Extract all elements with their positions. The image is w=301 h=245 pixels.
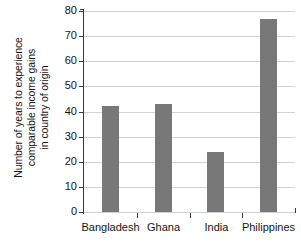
y-tick-label-text: 60 xyxy=(55,55,77,66)
y-tick-label-text: 50 xyxy=(55,80,77,91)
y-tick-label: 50 xyxy=(55,80,77,91)
bar-philippines xyxy=(260,19,277,212)
bar-chart: Number of years to experience comparable… xyxy=(0,0,301,245)
y-tick-mark xyxy=(79,36,84,37)
y-tick-label-text: 70 xyxy=(55,30,77,41)
y-tick-mark xyxy=(79,162,84,163)
x-tick-mark xyxy=(190,213,191,218)
y-tick-mark xyxy=(79,11,84,12)
x-tick-mark xyxy=(242,213,243,218)
y-tick-label-text: 0 xyxy=(55,206,77,217)
y-tick-mark xyxy=(79,61,84,62)
gridline xyxy=(84,11,295,12)
y-axis-top-cap xyxy=(80,9,84,10)
bar-india xyxy=(207,152,224,212)
y-tick-label-text: 20 xyxy=(55,156,77,167)
y-tick-label: 10 xyxy=(55,181,77,192)
y-tick-label: 30 xyxy=(55,131,77,142)
bar-bangladesh xyxy=(102,106,119,212)
y-tick-mark xyxy=(79,137,84,138)
x-axis-label-philippines: Philippines xyxy=(236,221,301,233)
y-axis-title-text: Number of years to experience comparable… xyxy=(12,37,51,178)
y-tick-label-text: 80 xyxy=(55,5,77,16)
y-axis-title-line-3: in country of origin xyxy=(38,37,51,178)
x-axis-right-cap xyxy=(295,208,296,213)
y-tick-mark xyxy=(79,86,84,87)
y-tick-label-text: 10 xyxy=(55,181,77,192)
y-tick-label: 80 xyxy=(55,5,77,16)
y-tick-mark xyxy=(79,112,84,113)
y-axis-title-line-1: Number of years to experience xyxy=(12,37,25,178)
y-tick-label-text: 30 xyxy=(55,131,77,142)
y-axis-title: Number of years to experience comparable… xyxy=(0,0,62,215)
y-tick-label: 70 xyxy=(55,30,77,41)
y-axis-title-line-2: comparable income gains xyxy=(25,37,38,178)
y-tick-mark xyxy=(79,212,84,213)
y-tick-label: 60 xyxy=(55,55,77,66)
y-tick-label-text: 40 xyxy=(55,106,77,117)
y-tick-label: 20 xyxy=(55,156,77,167)
y-tick-label: 0 xyxy=(55,206,77,217)
x-tick-mark xyxy=(137,213,138,218)
y-tick-label: 40 xyxy=(55,106,77,117)
y-tick-mark xyxy=(79,187,84,188)
bar-ghana xyxy=(155,104,172,212)
